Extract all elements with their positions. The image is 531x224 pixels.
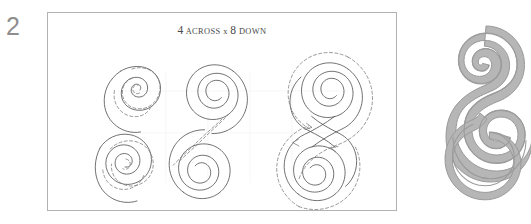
finished-s-spiral-motif xyxy=(432,20,531,206)
stage-double-spiral-outlined xyxy=(277,53,373,210)
figure-number-label: 2 xyxy=(6,14,20,39)
pattern-sheet: 2 4 ACROSS x 8 DOWN xyxy=(0,0,531,224)
stage-diagrams xyxy=(48,13,398,212)
stage-single-spiral-bottom xyxy=(95,134,153,202)
pattern-frame: 4 ACROSS x 8 DOWN xyxy=(47,12,397,211)
stage-single-spiral-top xyxy=(104,66,160,132)
